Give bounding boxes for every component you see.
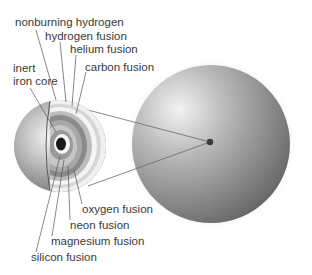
inert-iron-core bbox=[56, 138, 66, 151]
star-cutaway bbox=[14, 100, 106, 192]
stellar-structure-diagram: nonburning hydrogen hydrogen fusion heli… bbox=[0, 0, 312, 275]
core-location-dot bbox=[207, 139, 213, 145]
label-magnesium-fusion: magnesium fusion bbox=[51, 235, 144, 247]
label-silicon-fusion: silicon fusion bbox=[31, 251, 97, 263]
label-carbon-fusion: carbon fusion bbox=[85, 61, 154, 73]
label-iron-core: iron core bbox=[13, 75, 58, 87]
label-inert: inert bbox=[13, 62, 36, 74]
leader-hydrogen-fusion bbox=[60, 42, 66, 102]
label-oxygen-fusion: oxygen fusion bbox=[82, 203, 153, 215]
label-nonburning-hydrogen: nonburning hydrogen bbox=[15, 16, 124, 28]
label-neon-fusion: neon fusion bbox=[70, 219, 129, 231]
label-hydrogen-fusion: hydrogen fusion bbox=[45, 30, 127, 42]
label-helium-fusion: helium fusion bbox=[70, 43, 138, 55]
leader-helium-fusion bbox=[72, 55, 76, 106]
